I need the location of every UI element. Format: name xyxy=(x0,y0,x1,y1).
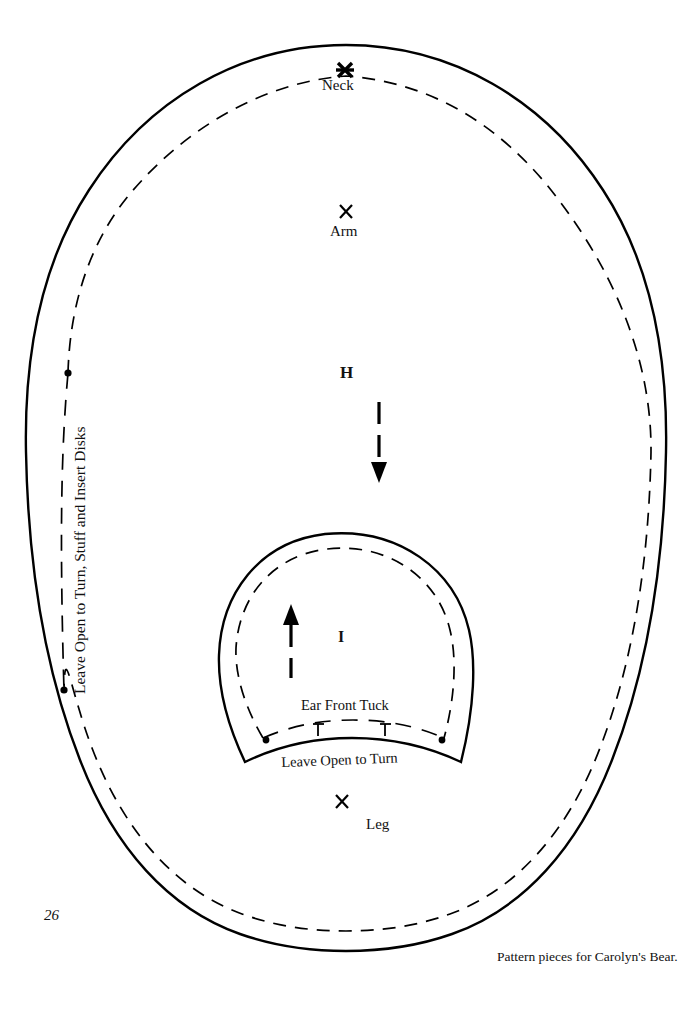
arm-mark-icon xyxy=(340,205,352,218)
pattern-diagram xyxy=(0,0,692,1023)
piece-i-opening-tick-right xyxy=(380,724,391,736)
piece-i-opening-dot-left xyxy=(263,737,270,744)
piece-h-letter-label: H xyxy=(340,364,353,381)
arm-label: Arm xyxy=(330,224,358,239)
piece-h-opening-dot-bottom xyxy=(60,686,67,693)
piece-h-opening-dot-top xyxy=(64,369,71,376)
piece-i-opening-seam-line xyxy=(263,720,444,738)
body-opening-instruction-label: Leave Open to Turn, Stuff and Insert Dis… xyxy=(72,427,88,695)
page-number: 26 xyxy=(44,908,59,923)
leg-mark-icon xyxy=(336,795,348,808)
neck-mark-icon xyxy=(336,63,354,77)
piece-i-opening-tick-left xyxy=(313,724,324,736)
piece-i-grain-arrow-icon xyxy=(283,604,299,678)
ear-front-tuck-label: Ear Front Tuck xyxy=(301,698,389,713)
leg-label: Leg xyxy=(366,817,389,832)
pattern-page: Neck Arm Leg H I Ear Front Tuck Leave Op… xyxy=(0,0,692,1023)
figure-caption: Pattern pieces for Carolyn's Bear. xyxy=(497,950,678,964)
piece-h-grain-arrow-icon xyxy=(371,402,387,483)
piece-h-cut-line xyxy=(26,45,666,951)
piece-i-opening-dot-right xyxy=(439,737,446,744)
neck-label: Neck xyxy=(322,78,354,93)
piece-h-seam-line xyxy=(64,76,651,931)
piece-i-letter-label: I xyxy=(338,629,344,645)
piece-h-opening-seam-line xyxy=(61,373,68,690)
